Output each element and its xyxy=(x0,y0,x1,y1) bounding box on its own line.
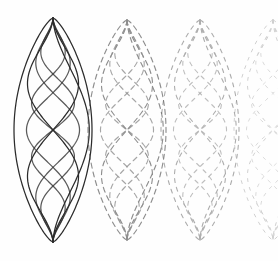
wave-packet-figure: Standing wave lens packets xyxy=(0,0,278,261)
figure-canvas: Standing wave lens packets xyxy=(0,0,278,261)
